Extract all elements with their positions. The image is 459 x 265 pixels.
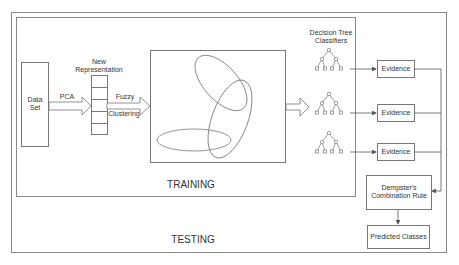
predicted-classes-label: Predicted Classes <box>367 233 430 241</box>
evidence-label-3: Evidence <box>377 148 415 156</box>
pca-label: PCA <box>57 93 77 101</box>
decision-tree-icon <box>316 131 343 153</box>
evidence-label-2: Evidence <box>377 109 415 117</box>
dataset-label-line2: Set <box>21 104 49 112</box>
fuzzy-label: Fuzzy <box>110 93 140 101</box>
decision-tree-icon <box>316 48 343 70</box>
classifiers-line1: Decision Tree <box>303 29 359 37</box>
decision-tree-icon <box>316 92 343 114</box>
clusters-box <box>151 51 286 163</box>
dempster-line1: Dempster's <box>366 184 432 192</box>
evidence-label-1: Evidence <box>377 65 415 73</box>
new-representation-line1: New <box>70 58 128 66</box>
classifiers-line2: Classifiers <box>303 37 359 45</box>
diagram-canvas <box>0 0 459 265</box>
output-arrow <box>286 98 309 116</box>
decision-tree-classifiers-label: Decision Tree Classifiers <box>303 29 359 45</box>
dataset-label-line1: Data <box>21 96 49 104</box>
new-representation-line2: Representation <box>70 66 128 74</box>
dempster-label: Dempster's Combination Rule <box>366 184 432 200</box>
dempster-line2: Combination Rule <box>366 192 432 200</box>
dataset-label: Data Set <box>21 96 49 112</box>
training-label: TRAINING <box>158 179 224 191</box>
clustering-label: Clustering <box>107 110 141 118</box>
testing-label: TESTING <box>160 234 226 246</box>
new-representation-label: New Representation <box>70 58 128 74</box>
representation-column <box>92 76 108 135</box>
